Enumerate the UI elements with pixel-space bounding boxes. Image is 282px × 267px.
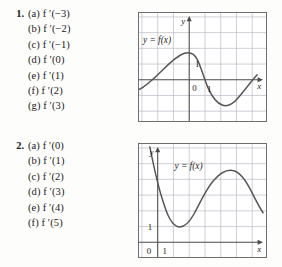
problem-item: (b) f ′(1) xyxy=(28,155,65,166)
curve-equation-label: y = f(x) xyxy=(142,35,171,46)
origin-label: 0 xyxy=(192,83,197,93)
list-item: (d) f ′(0) xyxy=(0,54,136,69)
problem-1: 1. (a) f ′(−3) (b) f ′(−2) (c) f ′(−1) (… xyxy=(0,8,136,116)
list-item: (b) f ′(−2) xyxy=(0,23,136,38)
problem-item: (g) f ′(3) xyxy=(28,100,65,111)
list-item: (f) f ′(2) xyxy=(0,85,136,100)
list-item: (d) f ′(3) xyxy=(0,186,136,201)
x-axis-label: x xyxy=(256,81,261,91)
y-tick-label-1: 1 xyxy=(195,59,199,69)
curve-equation-label: y = f(x) xyxy=(173,161,202,172)
y-axis-label: y xyxy=(180,16,185,26)
list-item: (g) f ′(3) xyxy=(0,100,136,115)
problem-item: (b) f ′(−2) xyxy=(28,23,71,34)
list-item: (b) f ′(1) xyxy=(0,155,136,170)
list-item: (e) f ′(1) xyxy=(0,70,136,85)
list-item: 1. (a) f ′(−3) xyxy=(0,8,136,23)
problem-item: (a) f ′(0) xyxy=(28,140,64,151)
problem-number: 1. xyxy=(0,8,28,19)
problem-item: (d) f ′(3) xyxy=(28,186,65,197)
list-item: (e) f ′(4) xyxy=(0,202,136,217)
x-tick-label-1: 1 xyxy=(163,246,167,256)
grid-horizontal xyxy=(139,17,266,111)
list-item: (c) f ′(−1) xyxy=(0,39,136,54)
problem-item: (d) f ′(0) xyxy=(28,54,65,65)
graph-panel-2: y x 0 1 1 y = f(x) xyxy=(138,143,267,258)
problem-item: (e) f ′(4) xyxy=(28,202,64,213)
graph-2-svg: y x 0 1 1 y = f(x) xyxy=(139,144,266,257)
graph-panel-1: y x 0 1 1 y = f(x) xyxy=(138,12,267,122)
function-curve xyxy=(150,147,263,227)
x-axis-label: x xyxy=(256,244,261,254)
problem-item: (c) f ′(2) xyxy=(28,171,64,182)
problem-number: 2. xyxy=(0,140,28,151)
problem-item: (a) f ′(−3) xyxy=(28,8,70,19)
problem-item: (c) f ′(−1) xyxy=(28,39,70,50)
list-item: 2. (a) f ′(0) xyxy=(0,140,136,155)
list-item: (f) f ′(5) xyxy=(0,217,136,232)
list-item: (c) f ′(2) xyxy=(0,171,136,186)
y-tick-label-1: 1 xyxy=(148,222,152,232)
y-axis-label: y xyxy=(149,147,154,157)
graph-1-svg: y x 0 1 1 y = f(x) xyxy=(139,13,266,121)
problem-2: 2. (a) f ′(0) (b) f ′(1) (c) f ′(2) (d) … xyxy=(0,140,136,232)
problem-item: (f) f ′(2) xyxy=(28,85,63,96)
problem-item: (f) f ′(5) xyxy=(28,217,63,228)
problem-item: (e) f ′(1) xyxy=(28,70,64,81)
origin-label: 0 xyxy=(147,246,152,256)
x-tick-label-1: 1 xyxy=(207,84,211,94)
